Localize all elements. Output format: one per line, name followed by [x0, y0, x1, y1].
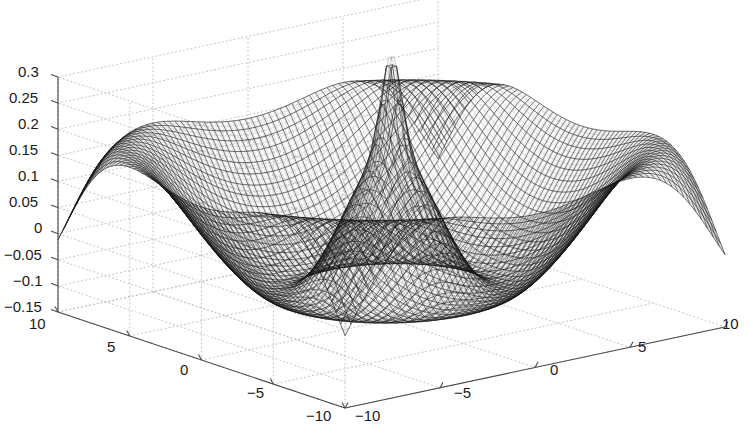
mesh-line-fine-v	[420, 81, 707, 228]
x-axis-tick-label: 5	[638, 338, 646, 355]
z-axis-tick-label: −0.05	[4, 246, 42, 263]
y-axis-tick-label: −5	[247, 384, 264, 401]
x-axis-tick-label: 0	[550, 361, 558, 378]
z-axis-tick	[51, 127, 58, 130]
z-axis-tick-label: 0.15	[9, 141, 38, 158]
y-axis-tick-label: 5	[107, 338, 115, 355]
z-axis-tick-label: 0	[34, 219, 42, 236]
z-axis-tick-label: 0.05	[9, 193, 38, 210]
z-axis-tick	[51, 283, 58, 286]
z-axis-tick	[51, 205, 58, 208]
background-grid	[58, 0, 725, 408]
x-axis-tick-label: −5	[454, 384, 471, 401]
y-axis-tick-label: 10	[29, 315, 46, 332]
x-axis-tick-label: 10	[722, 315, 739, 332]
x-axis-tick-label: −10	[355, 407, 380, 424]
y-axis-tick-label: 0	[180, 361, 188, 378]
z-axis-tick-label: 0.3	[18, 63, 39, 80]
z-axis-tick	[51, 74, 58, 77]
z-axis-tick	[51, 257, 58, 260]
z-axis-tick-label: 0.25	[9, 89, 38, 106]
z-axis-tick	[51, 179, 58, 182]
y-axis-tick-label: −10	[306, 407, 331, 424]
z-axis-tick	[51, 231, 58, 234]
z-axis-tick-label: −0.15	[4, 298, 42, 315]
z-axis-tick	[51, 101, 58, 104]
z-axis-tick-label: 0.2	[18, 115, 39, 132]
matlab-figure-window: 0.30.250.20.150.10.050−0.05−0.1−0.151050…	[0, 0, 753, 440]
z-axis-tick-label: 0.1	[18, 167, 39, 184]
surface-plot-canvas	[0, 0, 753, 440]
grid-line-zy	[58, 48, 438, 129]
z-axis-tick	[51, 153, 58, 156]
z-axis-tick-label: −0.1	[13, 272, 43, 289]
